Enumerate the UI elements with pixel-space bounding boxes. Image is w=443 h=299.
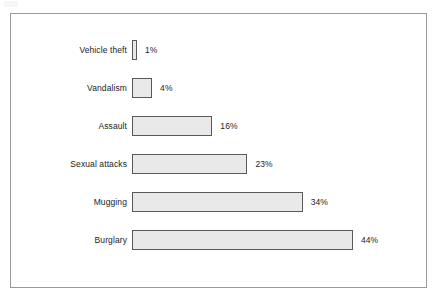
bar-value-label: 1%	[145, 40, 158, 60]
bar	[132, 40, 137, 60]
bar-value-label: 4%	[160, 78, 173, 98]
bar-row: Sexual attacks23%	[11, 154, 428, 174]
category-label: Sexual attacks	[70, 154, 127, 174]
bar-chart-figure: Vehicle theft1%Vandalism4%Assault16%Sexu…	[0, 0, 443, 299]
bar-row: Mugging34%	[11, 192, 428, 212]
bar	[132, 116, 212, 136]
bar	[132, 192, 303, 212]
bar-value-label: 34%	[311, 192, 328, 212]
bar-value-label: 44%	[361, 230, 378, 250]
category-label: Vandalism	[87, 78, 127, 98]
bar-row: Burglary44%	[11, 230, 428, 250]
category-label: Vehicle theft	[79, 40, 127, 60]
bar-row: Vehicle theft1%	[11, 40, 428, 60]
bar-value-label: 23%	[255, 154, 272, 174]
chart-plot-frame: Vehicle theft1%Vandalism4%Assault16%Sexu…	[10, 13, 427, 288]
bars-area: Vehicle theft1%Vandalism4%Assault16%Sexu…	[11, 14, 428, 289]
bar-row: Vandalism4%	[11, 78, 428, 98]
category-label: Mugging	[94, 192, 127, 212]
bar-value-label: 16%	[220, 116, 237, 136]
bar-row: Assault16%	[11, 116, 428, 136]
category-label: Assault	[98, 116, 127, 136]
category-label: Burglary	[95, 230, 127, 250]
bar	[132, 230, 353, 250]
scan-artifact	[4, 1, 18, 7]
bar	[132, 154, 247, 174]
bar	[132, 78, 152, 98]
